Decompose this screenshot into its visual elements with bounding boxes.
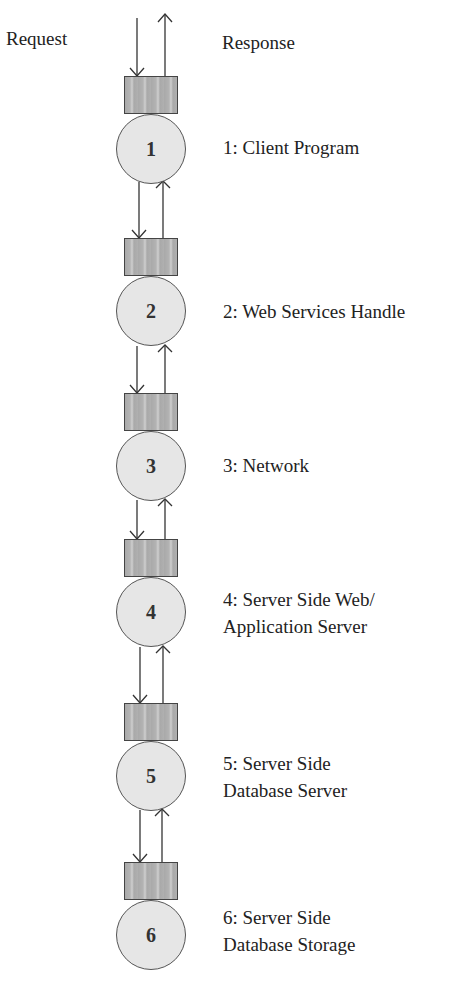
stage-label-4: 4: Server Side Web/ Application Server xyxy=(223,586,375,640)
stage-label-line: 5: Server Side xyxy=(223,750,347,777)
stage-label-line: Database Storage xyxy=(223,931,355,958)
stage-number: 2 xyxy=(146,300,156,323)
response-header: Response xyxy=(222,32,295,54)
stage-label-5: 5: Server Side Database Server xyxy=(223,750,347,804)
stage-node-1: 1 xyxy=(116,114,186,184)
stage-number: 5 xyxy=(146,765,156,788)
stage-number: 6 xyxy=(146,924,156,947)
stage-label-line: Database Server xyxy=(223,777,347,804)
request-header: Request xyxy=(6,28,67,50)
queue-box-2 xyxy=(124,238,178,276)
queue-box-5 xyxy=(124,703,178,741)
queue-box-6 xyxy=(124,862,178,900)
stage-label-1: 1: Client Program xyxy=(223,134,359,161)
stage-number: 1 xyxy=(146,138,156,161)
stage-node-2: 2 xyxy=(116,276,186,346)
stage-label-line: 6: Server Side xyxy=(223,904,355,931)
stage-node-3: 3 xyxy=(116,431,186,501)
stage-label-6: 6: Server Side Database Storage xyxy=(223,904,355,958)
queue-box-1 xyxy=(124,76,178,114)
stage-label-2: 2: Web Services Handle xyxy=(223,298,405,325)
queue-box-3 xyxy=(124,393,178,431)
stage-label-line: 2: Web Services Handle xyxy=(223,298,405,325)
stage-label-3: 3: Network xyxy=(223,452,309,479)
stage-node-5: 5 xyxy=(116,741,186,811)
stage-number: 4 xyxy=(146,601,156,624)
stage-number: 3 xyxy=(146,455,156,478)
stage-label-line: 1: Client Program xyxy=(223,134,359,161)
queue-box-4 xyxy=(124,539,178,577)
stage-label-line: 4: Server Side Web/ xyxy=(223,586,375,613)
stage-node-4: 4 xyxy=(116,577,186,647)
stage-node-6: 6 xyxy=(116,900,186,970)
stage-label-line: Application Server xyxy=(223,613,375,640)
stage-label-line: 3: Network xyxy=(223,452,309,479)
